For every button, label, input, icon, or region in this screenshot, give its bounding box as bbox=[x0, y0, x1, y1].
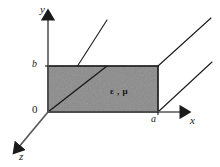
x-axis-label: x bbox=[190, 114, 195, 126]
diagram-canvas bbox=[0, 0, 220, 167]
perspective-line-3 bbox=[158, 62, 212, 112]
origin-label: 0 bbox=[32, 103, 38, 115]
perspective-line-2 bbox=[158, 18, 211, 66]
waveguide-rect-noise bbox=[48, 66, 158, 112]
waveguide-rect-group bbox=[48, 66, 158, 112]
z-axis-label: z bbox=[19, 150, 23, 162]
y-axis-label: y bbox=[40, 3, 45, 15]
material-properties-label: ε , μ bbox=[110, 86, 128, 96]
b-dimension-label: b bbox=[32, 58, 37, 69]
a-dimension-label: a bbox=[151, 113, 156, 124]
waveguide-cross-section-figure: y x z b a 0 ε , μ bbox=[0, 0, 220, 167]
z-axis bbox=[18, 112, 48, 148]
